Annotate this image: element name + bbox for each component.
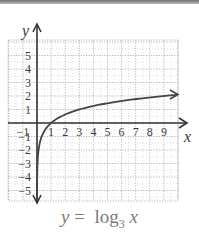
caption-x: x	[125, 206, 138, 227]
x-tick-label: 7	[133, 125, 139, 139]
y-tick-label: −5	[18, 184, 31, 198]
y-tick-label: 3	[25, 76, 31, 90]
y-tick-label: 2	[25, 89, 31, 103]
x-tick-label: 5	[105, 125, 111, 139]
y-tick-label: −2	[18, 143, 31, 157]
y-tick-label: −4	[18, 170, 31, 184]
x-tick-label: 8	[147, 125, 153, 139]
caption-y: y	[61, 206, 69, 227]
x-tick-label: 6	[119, 125, 125, 139]
x-tick-label: 4	[90, 125, 96, 139]
x-tick-label: 3	[76, 125, 82, 139]
y-tick-label: −3	[18, 157, 31, 171]
x-tick-label: 1	[48, 125, 54, 139]
y-axis-label: y	[20, 22, 30, 40]
y-tick-label: −1	[18, 130, 31, 144]
x-tick-label: 9	[161, 125, 167, 139]
y-tick-label: 1	[25, 103, 31, 117]
y-tick-label: 4	[25, 62, 31, 76]
caption-equals: =	[70, 206, 90, 227]
grid	[8, 40, 178, 201]
y-tick-label: 5	[25, 49, 31, 63]
log-graph: −112345678954321−1−2−3−4−5 y x	[0, 0, 199, 241]
x-axis-label: x	[183, 128, 191, 145]
x-tick-label: 2	[62, 125, 68, 139]
caption-log: log	[94, 206, 118, 227]
function-caption: y = log3 x	[0, 206, 199, 232]
